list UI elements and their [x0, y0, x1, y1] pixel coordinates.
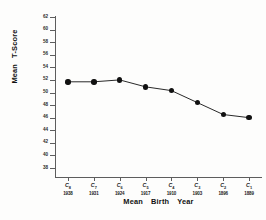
plot-area: 62605856545250484644424038 C81938C71931C… [0, 0, 266, 220]
data-point [65, 79, 70, 84]
data-point [221, 112, 226, 117]
y-axis-title-word: T-Score [10, 29, 19, 58]
x-axis-title-word: Birth [151, 197, 169, 206]
x-axis-title-word: Year [177, 197, 193, 206]
y-axis-title-word: Mean [10, 64, 19, 84]
series-line [0, 0, 266, 220]
data-point [117, 77, 122, 82]
data-point [143, 84, 148, 89]
x-axis-title-word: Mean [123, 197, 143, 206]
chart-figure: 62605856545250484644424038 C81938C71931C… [0, 0, 266, 220]
data-point [91, 79, 96, 84]
x-axis-title: MeanBirthYear [55, 197, 262, 206]
y-axis-title: MeanT-Score [10, 0, 19, 117]
